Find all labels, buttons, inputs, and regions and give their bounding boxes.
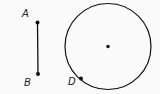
point-d [79, 77, 83, 81]
segment-ab: A B [21, 8, 40, 88]
circle-center-point [106, 45, 110, 49]
point-b [36, 72, 40, 76]
geometry-diagram: A B D [0, 0, 160, 94]
point-a [36, 21, 40, 25]
segment-line [38, 23, 39, 75]
label-d: D [68, 76, 76, 87]
label-a: A [21, 8, 29, 19]
circle-figure: D [65, 4, 151, 90]
label-b: B [24, 77, 31, 88]
